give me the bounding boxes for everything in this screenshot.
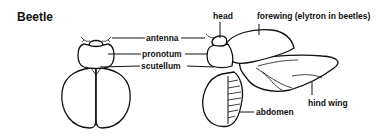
label-head: head (213, 11, 233, 21)
label-antenna: antenna (146, 33, 179, 43)
antenna-right (102, 37, 111, 42)
right-elytron (96, 68, 130, 128)
label-hind-wing: hind wing (308, 98, 348, 108)
pronotum-shape (78, 44, 114, 69)
beetle-anatomy-diagram: Beetle (0, 0, 388, 137)
diagram-title: Beetle (17, 10, 53, 24)
label-abdomen: abdomen (256, 107, 294, 117)
dorsal-view-beetle (62, 37, 130, 128)
head-shape (89, 41, 103, 47)
label-pronotum: pronotum (142, 49, 182, 59)
label-scutellum: scutellum (141, 61, 181, 71)
pronotum-side-shape (207, 44, 233, 68)
left-elytron (62, 68, 96, 128)
head-side-shape (212, 36, 227, 46)
antenna-left (81, 37, 90, 42)
label-forewing: forewing (elytron in beetles) (257, 11, 371, 21)
